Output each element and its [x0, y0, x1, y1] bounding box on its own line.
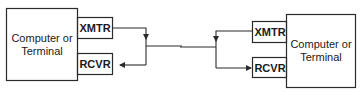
- right-computer-label-line2: Terminal: [300, 51, 342, 63]
- left-rcvr-label: RCVR: [79, 58, 110, 70]
- right-junction-lines: [180, 31, 252, 68]
- right-xmtr-label: XMTR: [254, 26, 285, 38]
- left-computer-label-line1: Computer or: [11, 32, 72, 44]
- right-xmtr-output-line: [216, 31, 252, 41]
- right-computer-label-line1: Computer or: [290, 38, 351, 50]
- communication-link-diagram: Computer or Terminal XMTR RCVR XMTR RCVR…: [0, 0, 361, 92]
- left-computer-label-line2: Terminal: [21, 45, 63, 57]
- left-junction-lines: [113, 28, 183, 65]
- right-station: XMTR RCVR Computer or Terminal: [253, 15, 356, 88]
- left-station: Computer or Terminal XMTR RCVR: [7, 9, 113, 81]
- left-xmtr-label: XMTR: [79, 22, 110, 34]
- right-rcvr-label: RCVR: [254, 62, 285, 74]
- left-xmtr-output-line: [113, 28, 147, 39]
